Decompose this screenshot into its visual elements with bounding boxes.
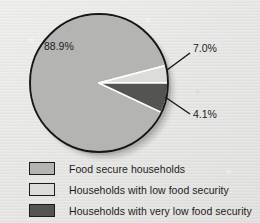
chart-legend: Food secure households Households with l… xyxy=(29,158,244,221)
legend-item-very-low-food-security[interactable]: Households with very low food security xyxy=(29,200,244,221)
legend-item-low-food-security[interactable]: Households with low food security xyxy=(29,179,244,200)
legend-swatch-food-secure xyxy=(29,162,55,175)
slice-label-7-0: 7.0% xyxy=(193,42,217,54)
legend-swatch-very-low-food-security xyxy=(29,204,55,217)
legend-label-low-food-security: Households with low food security xyxy=(69,184,229,196)
legend-item-food-secure[interactable]: Food secure households xyxy=(29,158,244,179)
slice-label-4-1: 4.1% xyxy=(193,108,217,120)
legend-label-food-secure: Food secure households xyxy=(69,163,185,175)
slice-label-88-9: 88.9% xyxy=(44,40,74,52)
chart-figure: 88.9% 7.0% 4.1% Food secure households H… xyxy=(0,0,260,223)
legend-label-very-low-food-security: Households with very low food security xyxy=(69,205,252,217)
leader-line-7-0 xyxy=(167,53,190,70)
legend-swatch-low-food-security xyxy=(29,183,55,196)
leader-line-4-1 xyxy=(165,97,190,114)
